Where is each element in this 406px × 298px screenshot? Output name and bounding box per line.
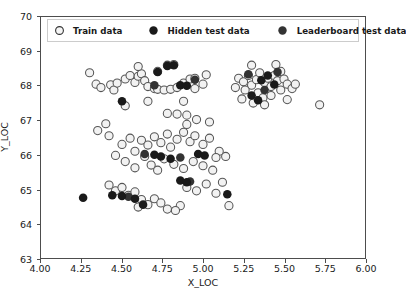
- x-tick-label: 5.25: [233, 263, 254, 274]
- open-circle-icon: [52, 25, 66, 36]
- data-points-layer: [41, 17, 365, 258]
- x-tick-label: 4.50: [111, 263, 132, 274]
- data-point: [139, 200, 148, 209]
- data-point: [179, 164, 187, 172]
- y-tick-label: 70: [20, 11, 32, 22]
- data-point: [183, 82, 192, 91]
- data-point: [273, 68, 282, 77]
- data-point: [118, 140, 126, 148]
- data-point: [131, 147, 139, 155]
- data-point: [118, 183, 126, 191]
- y-tick-mark: [37, 259, 41, 260]
- x-tick-label: 4.25: [70, 263, 91, 274]
- data-point: [277, 86, 285, 94]
- data-point: [212, 153, 220, 161]
- filled-circle-icon: [146, 25, 160, 36]
- x-tick-mark: [325, 259, 326, 263]
- x-tick-mark: [285, 259, 286, 263]
- data-point: [254, 96, 263, 105]
- data-point: [283, 96, 291, 104]
- data-point: [183, 178, 192, 187]
- data-point: [118, 97, 127, 106]
- data-point: [205, 134, 213, 142]
- y-tick-label: 64: [20, 219, 32, 230]
- data-point: [225, 202, 233, 210]
- legend-entry-leaderboard: Leaderboard test data: [276, 25, 406, 36]
- data-point: [191, 75, 200, 84]
- data-point: [222, 152, 230, 160]
- data-point: [241, 86, 249, 94]
- data-point: [189, 158, 197, 166]
- data-point: [126, 134, 134, 142]
- y-tick-label: 65: [20, 184, 32, 195]
- data-point: [316, 101, 324, 109]
- x-tick-label: 4.75: [152, 263, 173, 274]
- x-tick-label: 5.50: [274, 263, 295, 274]
- x-tick-label: 6.00: [355, 263, 376, 274]
- data-point: [97, 84, 105, 92]
- data-point: [270, 80, 279, 89]
- data-point: [111, 151, 119, 159]
- data-point: [163, 205, 171, 213]
- data-point: [157, 139, 165, 147]
- data-point: [205, 118, 213, 126]
- data-point: [267, 91, 275, 99]
- data-point: [183, 111, 191, 119]
- data-point: [150, 81, 159, 90]
- data-point: [202, 180, 210, 188]
- data-point: [105, 181, 113, 189]
- data-point: [192, 187, 200, 195]
- data-point: [191, 132, 199, 140]
- data-point: [131, 195, 140, 204]
- data-point: [192, 116, 200, 124]
- data-point: [153, 68, 162, 77]
- plot-frame: [40, 16, 366, 259]
- x-tick-mark: [366, 259, 367, 263]
- legend-label-leaderboard: Leaderboard test data: [297, 26, 406, 36]
- data-point: [173, 110, 181, 118]
- legend-label-hidden: Hidden test data: [167, 26, 249, 36]
- data-point: [170, 61, 179, 70]
- data-point: [173, 135, 181, 143]
- data-point: [150, 133, 158, 141]
- data-point: [209, 166, 217, 174]
- data-point: [223, 190, 232, 199]
- data-point: [108, 191, 117, 200]
- data-point: [118, 192, 127, 201]
- x-tick-mark: [244, 259, 245, 263]
- y-tick-label: 67: [20, 115, 32, 126]
- y-tick-label: 63: [20, 254, 32, 265]
- data-point: [144, 97, 152, 105]
- data-point: [140, 150, 149, 159]
- data-point: [291, 80, 299, 88]
- data-point: [94, 127, 102, 135]
- data-point: [144, 141, 152, 149]
- data-point: [200, 151, 209, 160]
- filled-circle-icon: [276, 25, 290, 36]
- data-point: [105, 132, 113, 140]
- x-tick-label: 5.00: [192, 263, 213, 274]
- data-point: [218, 178, 226, 186]
- data-point: [264, 71, 273, 80]
- data-point: [199, 162, 207, 170]
- data-point: [157, 152, 166, 161]
- data-point: [131, 164, 139, 172]
- data-point: [202, 71, 210, 79]
- data-point: [163, 109, 171, 117]
- data-point: [272, 60, 280, 68]
- data-point: [163, 130, 171, 138]
- data-point: [171, 206, 179, 214]
- data-point: [121, 158, 129, 166]
- plot-area: [41, 17, 365, 258]
- x-tick-label: 5.75: [315, 263, 336, 274]
- data-point: [154, 166, 162, 174]
- legend-label-train: Train data: [73, 26, 122, 36]
- data-point: [113, 79, 121, 87]
- data-point: [176, 153, 185, 162]
- legend-entry-train: Train data: [52, 25, 122, 36]
- x-tick-mark: [162, 259, 163, 263]
- data-point: [191, 85, 199, 93]
- y-tick-label: 68: [20, 80, 32, 91]
- data-point: [199, 80, 207, 88]
